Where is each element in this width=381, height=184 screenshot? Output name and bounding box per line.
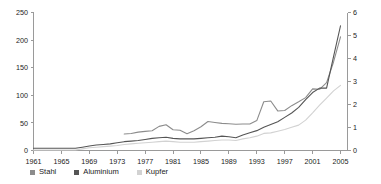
legend-swatch-icon: [74, 170, 79, 175]
legend-swatch-icon: [30, 170, 35, 175]
legend-swatch-icon: [137, 170, 142, 175]
y-axis-left-tick-label: 100: [16, 91, 28, 100]
x-axis-tick-label: 1969: [81, 157, 97, 166]
y-axis-right-tick-label: 6: [353, 8, 357, 17]
y-axis-right-tick-label: 1: [353, 123, 357, 132]
legend-item-stahl: Stahl: [30, 167, 56, 177]
x-axis-tick-label: 1965: [53, 157, 69, 166]
y-axis-left-tick-label: 250: [16, 8, 28, 17]
x-axis-tick-label: 1961: [26, 157, 42, 166]
y-axis-right-tick-label: 4: [353, 54, 357, 63]
series-group: [34, 26, 341, 150]
x-axis-tick-label: 1973: [109, 157, 125, 166]
x-axis-tick-label: 1997: [277, 157, 293, 166]
x-axis-tick-label: 1989: [221, 157, 237, 166]
x-axis-tick-label: 1977: [137, 157, 153, 166]
legend-label: Kupfer: [146, 167, 168, 177]
x-axis-tick-label: 1981: [165, 157, 181, 166]
chart-plot-area: 0501001502002500123456196119651969197319…: [0, 0, 381, 184]
x-axis-tick-label: 1985: [193, 157, 209, 166]
y-axis-right-tick-label: 5: [353, 31, 357, 40]
legend-label: Stahl: [39, 167, 56, 177]
y-axis-right-tick-label: 0: [353, 146, 357, 155]
x-axis-tick-label: 1993: [249, 157, 265, 166]
y-axis-right-tick-label: 2: [353, 100, 357, 109]
y-axis-left-tick-label: 0: [24, 146, 28, 155]
y-axis-left-tick-label: 200: [16, 36, 28, 45]
legend-item-kupfer: Kupfer: [137, 167, 168, 177]
y-axis-left-tick-label: 150: [16, 63, 28, 72]
y-axis-left-tick-label: 50: [20, 119, 28, 128]
x-axis-tick-label: 2005: [333, 157, 349, 166]
x-axis-tick-label: 2001: [305, 157, 321, 166]
legend-label: Aluminium: [83, 167, 118, 177]
legend-item-aluminium: Aluminium: [74, 167, 118, 177]
series-line-aluminium: [34, 26, 341, 149]
price-index-chart: 0501001502002500123456196119651969197319…: [0, 0, 381, 184]
chart-legend: StahlAluminiumKupfer: [30, 167, 168, 177]
series-line-kupfer: [34, 85, 341, 150]
series-line-stahl: [124, 37, 340, 134]
y-axis-right-tick-label: 3: [353, 77, 357, 86]
